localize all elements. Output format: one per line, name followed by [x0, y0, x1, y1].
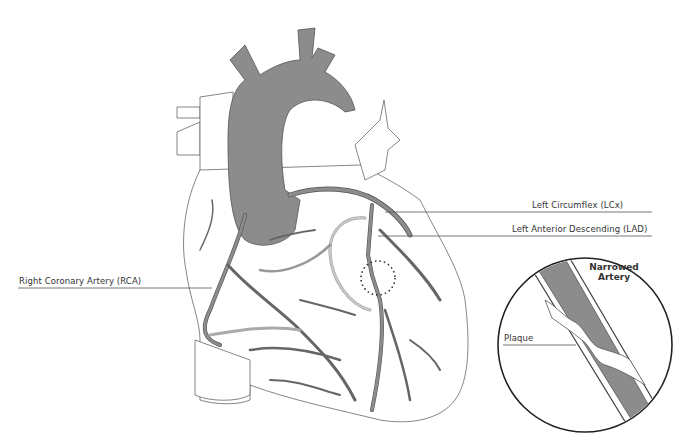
heart-outline [177, 92, 468, 422]
label-rca: Right Coronary Artery (RCA) [19, 276, 141, 286]
label-lad: Left Anterior Descending (LAD) [512, 224, 647, 234]
label-narrowed-artery: Narrowed Artery [584, 262, 644, 282]
heart-diagram [0, 0, 690, 446]
label-narrowed: Narrowed [584, 262, 644, 272]
label-artery: Artery [584, 272, 644, 282]
label-lcx: Left Circumflex (LCx) [532, 200, 623, 210]
label-plaque: Plaque [504, 333, 533, 343]
